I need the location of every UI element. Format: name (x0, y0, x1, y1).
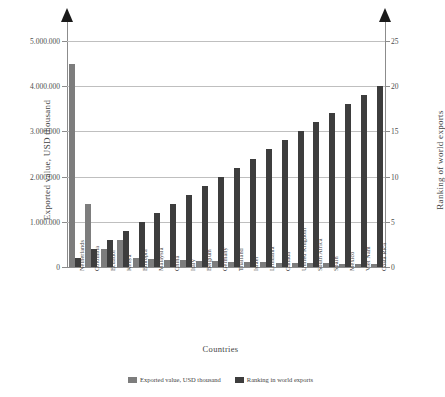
bar-group (67, 41, 83, 267)
y-axis-tick-mark (62, 267, 67, 268)
x-axis-tick-label: Colombia (93, 246, 100, 271)
legend-swatch-icon (128, 377, 137, 383)
bar-group (337, 41, 353, 267)
bar-group (369, 41, 385, 267)
right-axis-line (385, 20, 386, 267)
x-axis-tick-label: United Kingdom (300, 228, 307, 271)
legend-item-exported-value: Exported value, USD thousand (128, 376, 221, 383)
bar-group (210, 41, 226, 267)
bar-group (226, 41, 242, 267)
bar-exported-value (69, 64, 75, 267)
legend-swatch-icon (235, 377, 244, 383)
x-axis-tick-label: Lithuania (268, 246, 275, 271)
y-axis-tick-label: 3.000.000 (8, 127, 60, 136)
plot-area (67, 41, 385, 267)
x-axis-tick-label: Israel (252, 257, 259, 271)
chart-legend: Exported value, USD thousand Ranking in … (0, 376, 441, 383)
y2-axis-tick-label: 20 (391, 82, 399, 91)
bar-ranking (250, 159, 256, 267)
legend-item-ranking: Ranking in world exports (235, 376, 313, 383)
y2-axis-tick-label: 15 (391, 127, 399, 136)
legend-label: Ranking in world exports (247, 376, 313, 383)
bar-ranking (186, 195, 192, 267)
y2-axis-tick-mark (385, 41, 390, 42)
y2-axis-tick-label: 25 (391, 37, 399, 46)
x-axis-tick-label: Italy (189, 259, 196, 271)
bar-group (353, 41, 369, 267)
x-axis-tick-label: Germany (221, 247, 228, 271)
y-axis-tick-label: 2.000.000 (8, 172, 60, 181)
x-axis-tick-label: South Africa (316, 238, 323, 271)
y2-axis-title: Ranking of world exports (435, 65, 445, 255)
x-axis-tick-label: Ethiopia (141, 249, 148, 271)
bar-group (147, 41, 163, 267)
bar-group (306, 41, 322, 267)
bar-group (131, 41, 147, 267)
x-axis-tick-label: Malaysia (157, 248, 164, 271)
bar-group (99, 41, 115, 267)
x-axis-title: Countries (0, 344, 441, 354)
y-axis-title: Exported value, USD thousand (42, 65, 52, 255)
y2-axis-tick-mark (385, 222, 390, 223)
x-axis-tick-label: Ecuador (109, 250, 116, 271)
y-axis-tick-label: 4.000.000 (8, 82, 60, 91)
bar-group (83, 41, 99, 267)
y-axis-tick-label: 1.000.000 (8, 217, 60, 226)
bar-ranking (282, 140, 288, 267)
x-axis-tick-label: Mexico (348, 251, 355, 271)
y2-axis-tick-label: 0 (391, 263, 395, 272)
bar-ranking (377, 86, 383, 267)
x-axis-tick-label: Netherlands (78, 240, 85, 271)
x-axis-tick-label: Canada (284, 252, 291, 271)
bar-ranking (329, 113, 335, 267)
left-axis-arrow-icon (61, 8, 73, 22)
y-axis-tick-label: 5.000.000 (8, 37, 60, 46)
bar-group (321, 41, 337, 267)
x-axis-tick-label: China (173, 256, 180, 271)
x-axis-tick-label: Viet Nam (364, 246, 371, 271)
bar-group (194, 41, 210, 267)
bar-ranking (361, 95, 367, 267)
y2-axis-tick-mark (385, 86, 390, 87)
y-axis-tick-label: 0 (8, 263, 60, 272)
bar-group (115, 41, 131, 267)
bar-ranking (345, 104, 351, 267)
bar-group (162, 41, 178, 267)
legend-label: Exported value, USD thousand (140, 376, 221, 383)
y2-axis-tick-mark (385, 177, 390, 178)
x-axis-tick-label: Costa Rica (380, 243, 387, 271)
right-axis-arrow-icon (379, 8, 391, 22)
bar-group (274, 41, 290, 267)
y2-axis-tick-mark (385, 131, 390, 132)
bar-group (258, 41, 274, 267)
y2-axis-tick-label: 5 (391, 217, 395, 226)
x-axis-tick-label: Kenya (125, 254, 132, 271)
bar-group (242, 41, 258, 267)
bar-group (178, 41, 194, 267)
y2-axis-tick-label: 10 (391, 172, 399, 181)
x-axis-tick-label: Belgium (205, 249, 212, 271)
x-axis-tick-label: Spain (332, 256, 339, 271)
x-axis-tick-label: Thailand (237, 248, 244, 271)
